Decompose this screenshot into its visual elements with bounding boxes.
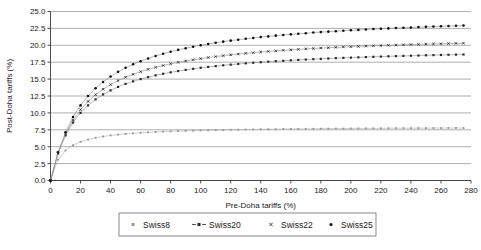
- data-point: [387, 127, 389, 129]
- series-line: [51, 128, 464, 181]
- data-point: [87, 104, 89, 106]
- data-point: [147, 131, 149, 133]
- data-point: [154, 55, 157, 58]
- data-point: [312, 128, 314, 130]
- data-point: [463, 127, 465, 129]
- data-point: [455, 127, 457, 129]
- data-point: [312, 31, 315, 34]
- data-point: [109, 75, 112, 78]
- data-point: [425, 26, 428, 29]
- data-point: [237, 129, 239, 131]
- data-point: [102, 93, 104, 95]
- data-point: [395, 127, 397, 129]
- data-point: [402, 26, 405, 29]
- chart-legend: Swiss8Swiss20Swiss22Swiss25: [119, 213, 376, 236]
- y-tick-label: 12.5: [30, 92, 46, 101]
- data-point: [282, 34, 285, 37]
- data-point: [132, 132, 134, 134]
- data-point: [305, 32, 308, 35]
- data-point: [329, 223, 332, 226]
- data-point: [327, 128, 329, 130]
- x-axis-ticks-group: 020406080100120140160180200220240260280: [48, 181, 478, 195]
- data-point: [94, 98, 96, 100]
- data-point: [79, 104, 82, 107]
- x-tick-label: 120: [224, 186, 238, 195]
- data-point: [169, 50, 172, 53]
- data-point: [425, 127, 427, 129]
- x-tick-label: 0: [48, 186, 53, 195]
- y-tick-label: 10.0: [30, 109, 46, 118]
- data-point: [215, 129, 217, 131]
- data-point: [215, 65, 217, 67]
- data-point: [462, 53, 464, 55]
- data-point: [79, 112, 81, 114]
- data-point: [350, 128, 352, 130]
- data-point: [342, 57, 344, 59]
- data-point: [170, 130, 172, 132]
- data-point: [109, 89, 111, 91]
- data-point: [320, 58, 322, 60]
- data-point: [312, 58, 314, 60]
- data-point: [177, 49, 180, 52]
- data-point: [95, 137, 97, 139]
- data-point: [267, 35, 270, 38]
- data-point: [162, 73, 164, 75]
- data-point: [207, 43, 210, 46]
- data-point: [462, 24, 465, 27]
- data-point: [327, 57, 329, 59]
- series-line: [51, 26, 464, 181]
- data-point: [365, 127, 367, 129]
- data-point: [57, 151, 60, 154]
- series-Swiss20: [49, 53, 464, 181]
- data-point: [155, 131, 157, 133]
- data-point: [207, 66, 209, 68]
- legend-label: Swiss8: [143, 220, 170, 230]
- data-point: [395, 55, 397, 57]
- data-point: [87, 139, 89, 141]
- data-point: [455, 25, 458, 28]
- data-point: [260, 61, 262, 63]
- data-point: [214, 42, 217, 45]
- legend-label: Swiss20: [209, 220, 241, 230]
- data-point: [357, 29, 360, 32]
- data-point: [124, 76, 126, 78]
- data-point: [335, 30, 338, 33]
- chart-canvas: 0.02.55.07.510.012.515.017.520.022.525.0…: [0, 0, 481, 250]
- data-point: [245, 62, 247, 64]
- data-point: [185, 69, 187, 71]
- data-point: [237, 63, 239, 65]
- data-point: [432, 54, 434, 56]
- series-Swiss22: [49, 42, 464, 182]
- data-point: [80, 141, 82, 143]
- data-point: [65, 150, 67, 152]
- data-point: [290, 33, 293, 36]
- data-point: [245, 129, 247, 131]
- data-point: [102, 136, 104, 138]
- y-tick-label: 5.0: [34, 143, 46, 152]
- data-point: [72, 116, 75, 119]
- data-point: [380, 27, 383, 30]
- data-point: [177, 130, 179, 132]
- y-tick-label: 0.0: [34, 176, 46, 185]
- y-tick-label: 20.0: [30, 41, 46, 50]
- data-series-group: [49, 24, 465, 182]
- data-point: [372, 56, 374, 58]
- data-point: [290, 59, 292, 61]
- y-tick-label: 25.0: [30, 7, 46, 16]
- legend-label: Swiss22: [281, 220, 313, 230]
- x-tick-label: 160: [284, 186, 298, 195]
- data-point: [402, 55, 404, 57]
- data-point: [410, 127, 412, 129]
- data-point: [274, 34, 277, 37]
- data-point: [117, 79, 119, 81]
- data-point: [275, 60, 277, 62]
- data-point: [147, 76, 149, 78]
- data-point: [200, 129, 202, 131]
- x-tick-label: 60: [136, 186, 145, 195]
- data-point: [335, 57, 337, 59]
- data-point: [252, 129, 254, 131]
- data-point: [49, 179, 52, 182]
- data-point: [282, 60, 284, 62]
- data-point: [230, 64, 232, 66]
- data-point: [117, 71, 120, 74]
